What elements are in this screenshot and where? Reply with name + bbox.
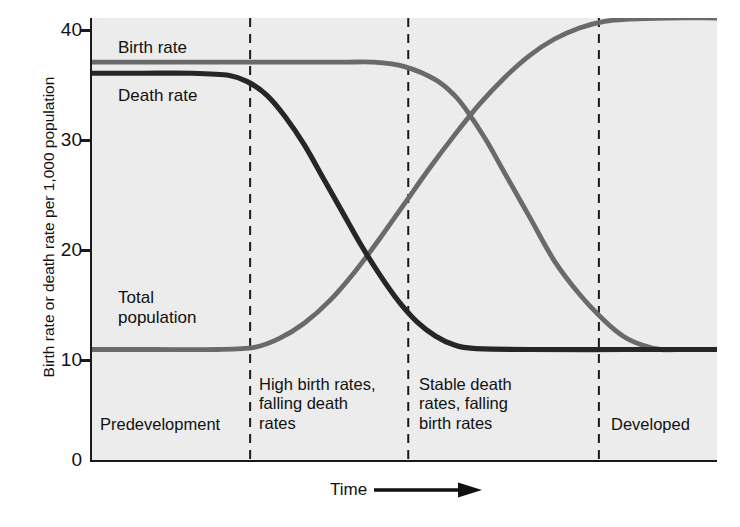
arrow-right-icon bbox=[374, 480, 484, 500]
stage-label-stage-two-line3: rates bbox=[259, 414, 375, 433]
y-tick-mark-40 bbox=[81, 29, 90, 32]
stage-label-stage-two-line1: High birth rates, bbox=[259, 375, 375, 394]
y-tick-label-0: 0 bbox=[42, 450, 82, 469]
stage-label-predevelopment: Predevelopment bbox=[100, 415, 220, 434]
y-tick-label-20: 20 bbox=[42, 240, 82, 259]
plot-area: Birth rate Death rate Total population P… bbox=[90, 18, 717, 462]
y-tick-mark-10 bbox=[81, 359, 90, 362]
y-tick-label-40: 40 bbox=[42, 20, 82, 39]
series-label-total-population-line2: population bbox=[118, 308, 196, 328]
y-tick-label-10: 10 bbox=[42, 350, 82, 369]
y-axis-tick-labels: 40 30 20 10 0 bbox=[38, 0, 82, 527]
stage-label-stage-two-line2: falling death bbox=[259, 394, 375, 413]
x-axis-title-text: Time bbox=[330, 480, 367, 500]
y-tick-mark-30 bbox=[81, 139, 90, 142]
series-label-birth-rate: Birth rate bbox=[118, 38, 187, 58]
chart-curves bbox=[92, 18, 717, 460]
y-tick-label-30: 30 bbox=[42, 130, 82, 149]
stage-label-stage-three-line3: birth rates bbox=[419, 414, 512, 433]
demographic-transition-chart: Birth rate or death rate per 1,000 popul… bbox=[0, 0, 740, 527]
stage-label-stage-three-line1: Stable death bbox=[419, 375, 512, 394]
x-axis-title: Time bbox=[330, 480, 484, 500]
stage-label-stage-three: Stable death rates, falling birth rates bbox=[419, 375, 512, 433]
y-tick-mark-20 bbox=[81, 249, 90, 252]
stage-label-developed: Developed bbox=[611, 415, 690, 434]
series-label-total-population: Total population bbox=[118, 288, 196, 327]
stage-label-stage-two: High birth rates, falling death rates bbox=[259, 375, 375, 433]
stage-label-stage-three-line2: rates, falling bbox=[419, 394, 512, 413]
series-label-death-rate: Death rate bbox=[118, 86, 197, 106]
series-label-total-population-line1: Total bbox=[118, 288, 196, 308]
